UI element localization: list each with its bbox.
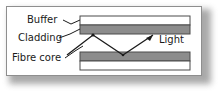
cladding-leader-line <box>59 29 80 38</box>
reflection-point-lower <box>122 54 125 57</box>
cladding-layer-bottom <box>80 52 190 61</box>
reflection-point-upper <box>91 33 94 36</box>
label-fibre-core: Fibre core <box>12 52 61 63</box>
label-buffer: Buffer <box>27 14 58 25</box>
buffer-layer-bottom <box>80 61 190 70</box>
label-light: Light <box>159 34 184 45</box>
buffer-leader-line <box>63 20 80 24</box>
figure-root: Buffer Cladding Fibre core Light <box>0 0 221 94</box>
fibre-diagram: Buffer Cladding Fibre core Light <box>7 7 202 76</box>
figure-frame: Buffer Cladding Fibre core Light <box>6 6 202 76</box>
label-cladding: Cladding <box>18 32 62 43</box>
buffer-layer-top <box>80 16 190 25</box>
light-arrowhead <box>146 35 153 41</box>
cladding-layer-top <box>80 25 190 34</box>
